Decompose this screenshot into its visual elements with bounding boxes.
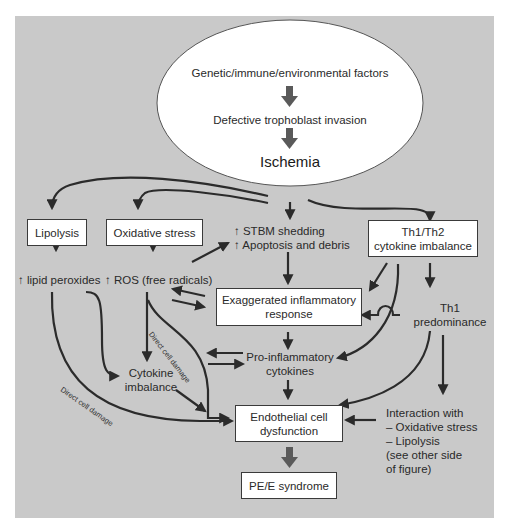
predominance-label: predominance xyxy=(400,315,500,329)
oxidative-stress-label: Oxidative stress xyxy=(114,226,196,240)
interaction-label-1: Interaction with xyxy=(386,406,463,420)
interaction-label-4: (see other side xyxy=(386,448,462,462)
th1-label: Th1 xyxy=(400,301,500,315)
cytokines-label: cytokines xyxy=(240,364,340,378)
stbm-shedding-label: ↑ STBM shedding xyxy=(234,224,325,238)
genetic-factors-text: Genetic/immune/environmental factors xyxy=(150,67,430,79)
endothelial-label-2: dysfunction xyxy=(260,424,318,438)
exaggerated-inflammatory-box: Exaggerated inflammatory response xyxy=(216,288,362,326)
lipid-peroxides-label: ↑ lipid peroxides xyxy=(18,273,100,287)
pe-e-syndrome-label: PE/E syndrome xyxy=(249,479,329,493)
th1-th2-label: Th1/Th2 xyxy=(402,225,445,239)
pe-e-syndrome-box: PE/E syndrome xyxy=(241,472,337,499)
exaggerated-label-2: response xyxy=(265,307,312,321)
lipolysis-label: Lipolysis xyxy=(35,226,79,240)
interaction-label-5: of figure) xyxy=(386,462,431,476)
exaggerated-label-1: Exaggerated inflammatory xyxy=(222,293,356,307)
ros-label: ↑ ROS (free radicals) xyxy=(105,273,212,287)
defective-trophoblast-text: Defective trophoblast invasion xyxy=(150,114,430,126)
ischemia-text: Ischemia xyxy=(150,153,430,170)
oxidative-stress-box: Oxidative stress xyxy=(106,219,203,246)
lipolysis-box: Lipolysis xyxy=(27,219,87,246)
pro-inflammatory-label: Pro-inflammatory xyxy=(240,350,340,364)
imbalance-label: imbalance xyxy=(116,380,186,394)
endothelial-label-1: Endothelial cell xyxy=(250,410,327,424)
interaction-label-2: – Oxidative stress xyxy=(386,420,477,434)
endothelial-dysfunction-box: Endothelial cell dysfunction xyxy=(235,405,343,442)
cytokine-imbalance-label: cytokine imbalance xyxy=(374,239,472,253)
th1-th2-box: Th1/Th2 cytokine imbalance xyxy=(368,220,478,257)
interaction-label-3: – Lipolysis xyxy=(386,434,440,448)
apoptosis-label: ↑ Apoptosis and debris xyxy=(234,238,350,252)
